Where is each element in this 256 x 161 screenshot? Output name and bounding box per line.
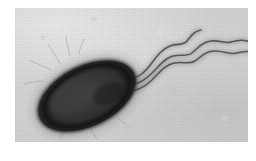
flagella-group — [123, 30, 248, 92]
page-root: · · · ·· · ····· ·· ··· ··· ·· ·· · ··· … — [0, 0, 256, 161]
figure-caption: · · · ·· · ····· ·· ··· ··· ·· ·· · ··· … — [15, 150, 248, 158]
micrograph-specimen-layer — [15, 8, 248, 142]
electron-micrograph-plate — [15, 8, 248, 142]
